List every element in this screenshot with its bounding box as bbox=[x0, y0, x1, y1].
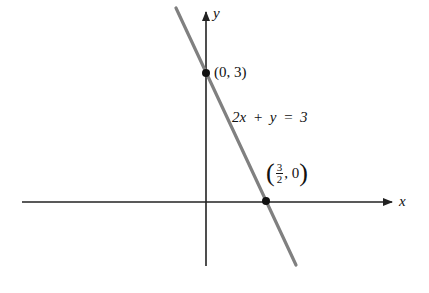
paren-open: ( bbox=[266, 158, 275, 187]
line-2x-plus-y-eq-3 bbox=[176, 8, 296, 265]
fraction-three-halves: 32 bbox=[276, 162, 284, 185]
x-axis-label: x bbox=[399, 194, 406, 209]
point-x-intercept bbox=[262, 197, 270, 205]
numerator: 3 bbox=[276, 162, 284, 174]
point2-y-value: , 0 bbox=[284, 165, 299, 181]
point-y-intercept-label: (0, 3) bbox=[214, 65, 247, 80]
point-x-intercept-label: (32, 0) bbox=[266, 160, 308, 186]
graph bbox=[0, 0, 429, 293]
equation-label: 2x + y = 3 bbox=[232, 110, 308, 125]
point-y-intercept bbox=[202, 69, 210, 77]
paren-close: ) bbox=[299, 158, 308, 187]
denominator: 2 bbox=[276, 174, 284, 185]
y-axis-label: y bbox=[213, 6, 220, 21]
